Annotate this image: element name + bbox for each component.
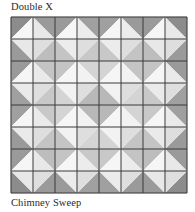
figure-title: Double X xyxy=(11,1,53,12)
figure-caption: Chimney Sweep xyxy=(11,197,81,208)
quilt-diagram xyxy=(10,16,188,194)
quilt-pattern xyxy=(10,16,188,194)
